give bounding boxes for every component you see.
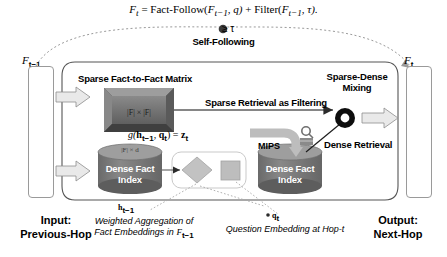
h-symbol-label: ht−1 (118, 203, 134, 215)
matrix-dimension-text: |F| × |F| (113, 108, 165, 117)
dense-retrieval-label: Dense Retrieval (324, 139, 394, 150)
dense-fact-index-right-label: Dense Fact Index (258, 163, 322, 185)
output-label: Output:Next-Hop (352, 213, 444, 241)
input-arrow-to-matrix (56, 87, 90, 107)
search-database-icon (300, 127, 313, 145)
output-arrow-to-next-hop (362, 108, 398, 128)
sparse-dense-mixing-node (335, 108, 355, 128)
weighted-aggregation-box (172, 152, 246, 188)
sparse-retrieval-label: Sparse Retrieval as Filtering (205, 97, 327, 108)
next-hop-fact-column (406, 66, 432, 198)
mips-label: MIPS (258, 141, 280, 151)
sparse-matrix-title: Sparse Fact-to-Fact Matrix (78, 73, 192, 84)
h-caption: Weighted Aggregation of Fact Embeddings … (74, 216, 214, 241)
sparse-dense-mixing-title: Sparse-Dense Mixing (314, 71, 400, 93)
self-following-label: Self-Following (0, 36, 447, 47)
mixing-equation: g(ht−1, qt) = zt (128, 129, 188, 143)
q-dot (266, 213, 270, 217)
aggregation-square (221, 161, 240, 180)
figure-formula: Ft = Fact-Follow(Ft−1, q) + Filter(Ft−1,… (0, 3, 447, 18)
q-symbol-label: qt (272, 211, 279, 223)
q-caption: Question Embedding at Hop-t (210, 224, 360, 234)
threshold-label: ≥ τ (222, 23, 234, 34)
input-arrow-to-dense-index (56, 161, 90, 181)
cylinder-dimension-text: |F| × d (104, 146, 156, 154)
previous-hop-fact-column (28, 66, 54, 198)
dense-fact-index-left-label: Dense Fact Index (98, 163, 162, 185)
